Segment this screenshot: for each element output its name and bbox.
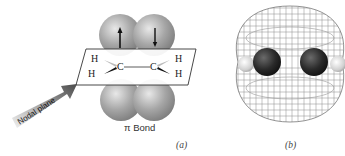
carbon-right: C	[150, 61, 157, 72]
hydrogen-top-left: H	[91, 53, 98, 64]
hydrogen-bottom-right: H	[175, 68, 182, 79]
pi-bond-diagram	[0, 0, 345, 156]
panel-a-label: (a)	[176, 140, 187, 150]
hydrogen-top-right: H	[175, 53, 182, 64]
ethylene-ball-model	[238, 48, 345, 76]
carbon-left: C	[117, 61, 124, 72]
hydrogen-bottom-left: H	[88, 68, 95, 79]
panel-b-label: (b)	[285, 140, 296, 150]
pi-bond-caption: π Bond	[124, 122, 155, 133]
